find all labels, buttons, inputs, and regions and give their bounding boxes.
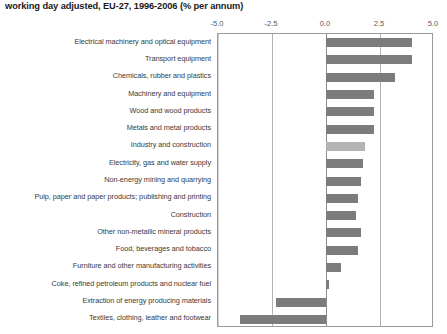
category-label: Industry and construction (131, 140, 211, 149)
bar (326, 211, 356, 220)
bar (326, 125, 374, 134)
bar (326, 194, 358, 203)
bar (326, 228, 361, 237)
x-tick-label: -2.5 (264, 19, 277, 28)
category-label: Textiles, clothing, leather and footwear (89, 313, 211, 322)
bar (276, 298, 326, 307)
category-label: Furniture and other manufacturing activi… (73, 261, 211, 270)
bar (326, 280, 329, 289)
category-label: Machinery and equipment (128, 89, 211, 98)
bar (326, 90, 374, 99)
bar (240, 315, 326, 324)
category-label: Construction (171, 210, 211, 219)
category-label: Electrical machinery and optical equipme… (74, 37, 211, 46)
category-label: Non-energy mining and quarrying (104, 175, 211, 184)
bar (326, 142, 365, 151)
x-axis-tick-labels: -5.0-2.50.02.55.0 (0, 19, 447, 31)
x-tick-label: 2.5 (374, 19, 385, 28)
bar (326, 107, 374, 116)
gridline (218, 34, 219, 326)
category-label: Transport equipment (145, 54, 211, 63)
x-tick-label: -5.0 (210, 19, 223, 28)
category-axis-labels: Electrical machinery and optical equipme… (0, 33, 214, 327)
bar (326, 246, 358, 255)
gridline (272, 34, 273, 326)
category-label: Chemicals, rubber and plastics (113, 71, 211, 80)
bar (326, 55, 412, 64)
x-tick-label: 5.0 (428, 19, 439, 28)
bar (326, 177, 361, 186)
category-label: Extraction of energy producing materials (82, 296, 211, 305)
category-label: Food, beverages and tobacco (116, 244, 211, 253)
category-label: Electricity, gas and water supply (109, 158, 211, 167)
chart-root: working day adjusted, EU-27, 1996-2006 (… (0, 0, 447, 334)
chart-title: working day adjusted, EU-27, 1996-2006 (… (5, 1, 243, 11)
category-label: Metals and metal products (127, 123, 211, 132)
bar (326, 159, 363, 168)
x-tick-label: 0.0 (320, 19, 331, 28)
category-label: Wood and wood products (129, 106, 211, 115)
bar (326, 73, 395, 82)
plot-area (217, 33, 433, 327)
category-label: Other non-metallic mineral products (97, 227, 211, 236)
category-label: Coke, refined petroleum products and nuc… (52, 279, 211, 288)
category-label: Pulp, paper and paper products; publishi… (34, 192, 211, 201)
bar (326, 263, 341, 272)
bar (326, 38, 412, 47)
